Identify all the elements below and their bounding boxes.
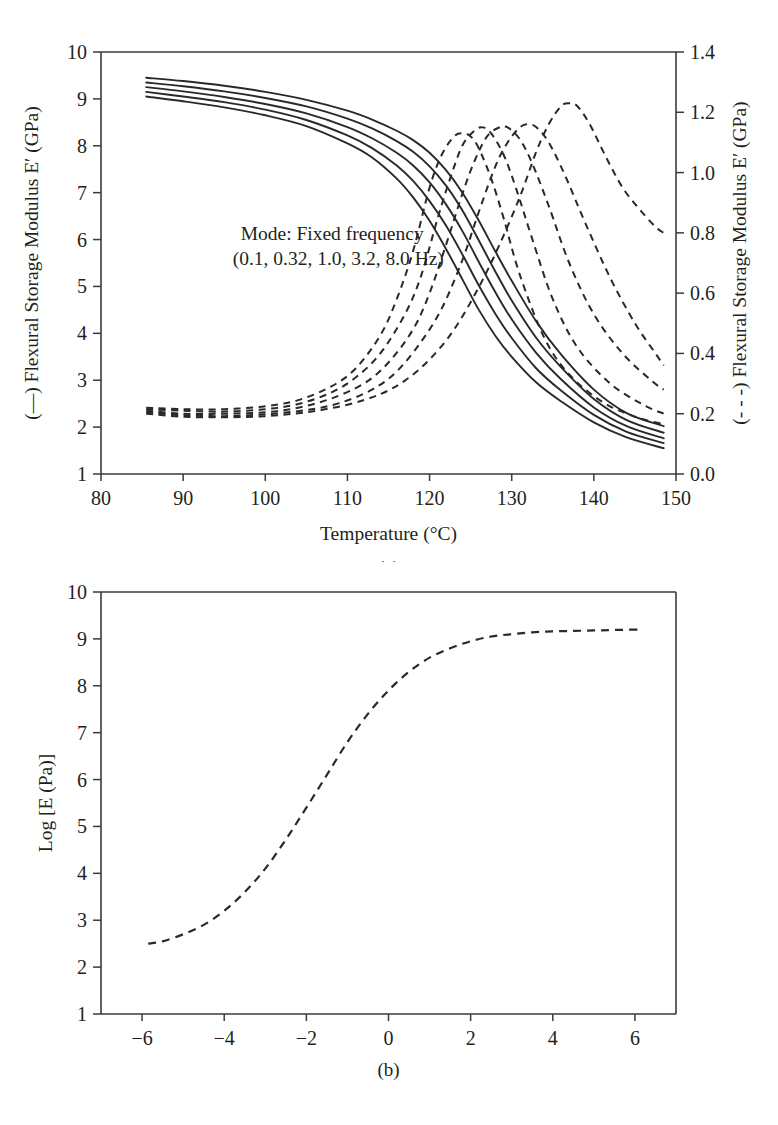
curve-master-curve (148, 630, 639, 944)
y-tick-label-right: 0.8 (690, 222, 715, 244)
y-axis-title-left: (—) Flexural Storage Modulus E′ (GPa) (21, 106, 43, 420)
x-tick-label: 110 (333, 487, 362, 509)
y-tick-label-left: 9 (77, 88, 87, 110)
curve-e-loss-1-0-hz (146, 126, 664, 414)
panel-b-plot: −6−4−2024612345678910Log [E (Pa)](b) (0, 562, 778, 1125)
curve-e-loss-0-32-hz (146, 127, 664, 414)
panel-b-master-curve: −6−4−2024612345678910Log [E (Pa)](b) (0, 562, 778, 1125)
x-tick-label: 130 (497, 487, 527, 509)
y-tick-label-right: 1.2 (690, 101, 715, 123)
y-tick-label-left: 3 (77, 369, 87, 391)
x-tick-label: 80 (91, 487, 111, 509)
y-axis-title-right: (- - -) Flexural Storage Modulus E′ (GPa… (729, 101, 751, 424)
curve-e-loss-3-2-hz (146, 124, 664, 416)
y-tick-label-left: 4 (77, 322, 87, 344)
panel-a-dma-temperature-sweep: 8090100110120130140150123456789100.00.20… (0, 0, 778, 562)
y-tick-label: 5 (77, 815, 87, 837)
y-tick-label-right: 1.0 (690, 162, 715, 184)
plot-frame (101, 592, 676, 1014)
y-tick-label: 2 (77, 956, 87, 978)
x-tick-label: 4 (548, 1027, 558, 1049)
y-axis-title: Log [E (Pa)] (35, 754, 57, 853)
y-tick-label-left: 8 (77, 135, 87, 157)
x-tick-label: 100 (250, 487, 280, 509)
x-tick-label: −2 (296, 1027, 317, 1049)
x-tick-label: 90 (173, 487, 193, 509)
y-tick-label: 9 (77, 628, 87, 650)
x-tick-label: −4 (214, 1027, 235, 1049)
x-tick-label: 120 (415, 487, 445, 509)
x-tick-label: 6 (630, 1027, 640, 1049)
y-tick-label-left: 5 (77, 275, 87, 297)
annotation-mode-line1: Mode: Fixed frequency (241, 223, 424, 244)
y-tick-label: 8 (77, 675, 87, 697)
y-tick-label-right: 0.4 (690, 342, 715, 364)
x-tick-label: 150 (661, 487, 691, 509)
y-tick-label: 6 (77, 769, 87, 791)
x-axis-title: Temperature (°C) (320, 523, 457, 545)
panel-a-plot: 8090100110120130140150123456789100.00.20… (0, 0, 778, 562)
y-tick-label: 7 (77, 722, 87, 744)
y-tick-label: 10 (67, 581, 87, 603)
curve-e-storage-0-1-hz (146, 97, 664, 449)
x-tick-label: 140 (579, 487, 609, 509)
y-tick-label-right: 0.6 (690, 282, 715, 304)
y-tick-label-left: 6 (77, 229, 87, 251)
x-tick-label: 0 (384, 1027, 394, 1049)
x-tick-label: −6 (131, 1027, 152, 1049)
y-tick-label: 3 (77, 909, 87, 931)
y-tick-label-right: 0.0 (690, 463, 715, 485)
y-tick-label-left: 10 (67, 41, 87, 63)
figure-container: 8090100110120130140150123456789100.00.20… (0, 0, 778, 1125)
y-tick-label-right: 0.2 (690, 403, 715, 425)
annotation-mode-line2: (0.1, 0.32, 1.0, 3.2, 8.0 Hz) (233, 248, 444, 270)
y-tick-label-left: 7 (77, 182, 87, 204)
x-tick-label: 2 (466, 1027, 476, 1049)
y-tick-label: 4 (77, 862, 87, 884)
panel-b-tag: (b) (377, 1059, 399, 1081)
y-tick-label-right: 1.4 (690, 41, 715, 63)
y-tick-label: 1 (77, 1003, 87, 1025)
y-tick-label-left: 1 (77, 463, 87, 485)
y-tick-label-left: 2 (77, 416, 87, 438)
